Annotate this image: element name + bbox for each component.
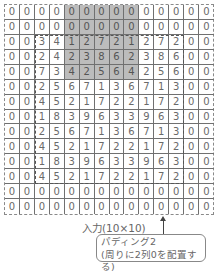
grid-cell: 1 bbox=[35, 154, 50, 169]
grid-cell: 0 bbox=[110, 184, 125, 199]
grid-cell: 0 bbox=[20, 184, 35, 199]
grid-cell: 5 bbox=[50, 95, 65, 110]
grid-cell: 3 bbox=[169, 124, 184, 139]
grid-cell: 0 bbox=[110, 20, 125, 35]
grid-cell: 0 bbox=[184, 169, 199, 184]
grid-cell: 2 bbox=[169, 95, 184, 110]
grid-cell: 0 bbox=[139, 20, 154, 35]
grid-cell: 3 bbox=[50, 65, 65, 80]
grid-cell: 2 bbox=[35, 80, 50, 95]
grid-cell: 2 bbox=[124, 169, 139, 184]
grid-cell: 4 bbox=[35, 95, 50, 110]
grid-cell: 0 bbox=[199, 139, 214, 154]
grid-cell: 2 bbox=[65, 169, 80, 184]
grid-cell: 5 bbox=[154, 65, 169, 80]
grid-cell: 3 bbox=[169, 154, 184, 169]
grid-cell: 7 bbox=[95, 139, 110, 154]
grid-cell: 0 bbox=[124, 20, 139, 35]
grid-cell: 3 bbox=[169, 110, 184, 125]
grid-cell: 7 bbox=[154, 169, 169, 184]
grid-cell: 0 bbox=[20, 35, 35, 50]
grid-cell: 2 bbox=[169, 35, 184, 50]
grid-cell: 7 bbox=[80, 124, 95, 139]
grid-cell: 2 bbox=[124, 95, 139, 110]
grid-cell: 0 bbox=[184, 139, 199, 154]
grid-cell: 2 bbox=[35, 50, 50, 65]
grid-cell: 6 bbox=[110, 50, 125, 65]
grid-cell: 8 bbox=[95, 50, 110, 65]
grid-cell: 0 bbox=[124, 184, 139, 199]
grid-cell: 0 bbox=[20, 124, 35, 139]
callout-title: パディング2 bbox=[101, 236, 201, 249]
grid-cell: 0 bbox=[35, 5, 50, 20]
grid-cell: 6 bbox=[154, 154, 169, 169]
grid-cell: 0 bbox=[184, 50, 199, 65]
grid-cell: 5 bbox=[50, 139, 65, 154]
grid-cell: 6 bbox=[65, 80, 80, 95]
grid-cell: 2 bbox=[169, 139, 184, 154]
grid-cell: 8 bbox=[50, 110, 65, 125]
grid-cell: 0 bbox=[124, 199, 139, 214]
grid-cell: 3 bbox=[139, 50, 154, 65]
grid-cell: 6 bbox=[124, 124, 139, 139]
grid-cell: 0 bbox=[110, 199, 125, 214]
grid-cell: 0 bbox=[5, 5, 20, 20]
grid-cell: 2 bbox=[139, 35, 154, 50]
grid-cell: 3 bbox=[110, 110, 125, 125]
grid-cell: 0 bbox=[80, 5, 95, 20]
grid-cell: 1 bbox=[80, 169, 95, 184]
grid-cell: 0 bbox=[184, 184, 199, 199]
grid-cell: 0 bbox=[110, 5, 125, 20]
grid-cell: 0 bbox=[50, 184, 65, 199]
grid-cell: 0 bbox=[169, 199, 184, 214]
grid-cell: 0 bbox=[199, 154, 214, 169]
grid-cell: 2 bbox=[139, 65, 154, 80]
grid-cell: 0 bbox=[154, 5, 169, 20]
grid-cell: 0 bbox=[199, 184, 214, 199]
input-size-label: 入力(10×10) bbox=[82, 220, 146, 235]
grid-cell: 3 bbox=[110, 154, 125, 169]
grid-cell: 2 bbox=[65, 50, 80, 65]
grid-cell: 9 bbox=[80, 110, 95, 125]
grid-cell: 3 bbox=[124, 110, 139, 125]
grid-cell: 7 bbox=[95, 169, 110, 184]
grid-cell: 0 bbox=[154, 20, 169, 35]
grid-cell: 0 bbox=[184, 5, 199, 20]
grid-cell: 7 bbox=[95, 35, 110, 50]
grid-cell: 8 bbox=[154, 50, 169, 65]
grid-cell: 0 bbox=[20, 139, 35, 154]
grid-cell: 1 bbox=[95, 124, 110, 139]
grid-cell: 0 bbox=[199, 20, 214, 35]
grid-cell: 2 bbox=[110, 139, 125, 154]
grid-cell: 2 bbox=[124, 50, 139, 65]
grid-cell: 2 bbox=[110, 35, 125, 50]
grid-cell: 7 bbox=[139, 80, 154, 95]
grid-cell: 0 bbox=[5, 50, 20, 65]
grid-cell: 0 bbox=[199, 35, 214, 50]
grid-cell: 0 bbox=[184, 110, 199, 125]
grid-cell: 6 bbox=[169, 65, 184, 80]
grid-cell: 6 bbox=[95, 110, 110, 125]
grid-cell: 5 bbox=[50, 124, 65, 139]
grid-cell: 0 bbox=[80, 199, 95, 214]
grid-cell: 0 bbox=[20, 110, 35, 125]
grid-cell: 0 bbox=[154, 199, 169, 214]
grid-cell: 0 bbox=[65, 5, 80, 20]
grid-cell: 0 bbox=[20, 65, 35, 80]
grid-cell: 1 bbox=[80, 95, 95, 110]
grid-cell: 0 bbox=[20, 5, 35, 20]
grid-cell: 0 bbox=[20, 95, 35, 110]
grid-cell: 2 bbox=[80, 35, 95, 50]
grid-cell: 0 bbox=[184, 154, 199, 169]
padded-input-grid: 0000000000000000000000000000003412721272… bbox=[5, 5, 214, 214]
grid-cell: 7 bbox=[154, 139, 169, 154]
grid-cell: 6 bbox=[154, 110, 169, 125]
arrow-up-icon bbox=[160, 216, 166, 221]
grid-cell: 0 bbox=[65, 184, 80, 199]
grid-cell: 0 bbox=[95, 184, 110, 199]
grid-cell: 0 bbox=[5, 199, 20, 214]
grid-cell: 0 bbox=[95, 20, 110, 35]
grid-cell: 3 bbox=[110, 124, 125, 139]
grid-cell: 0 bbox=[95, 199, 110, 214]
grid-cell: 0 bbox=[199, 65, 214, 80]
